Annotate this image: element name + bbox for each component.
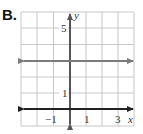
x-tick-neg1: −1	[45, 113, 57, 125]
x-axis-label: x	[127, 113, 133, 125]
x-tick-3: 3	[115, 113, 121, 125]
y-axis-label: y	[73, 9, 79, 21]
y-tick-5: 5	[61, 22, 67, 34]
y-tick-1: 1	[62, 87, 68, 99]
x-tick-1: 1	[84, 113, 90, 125]
coordinate-graph: 5 1 −1 1 3 y x	[0, 0, 143, 134]
